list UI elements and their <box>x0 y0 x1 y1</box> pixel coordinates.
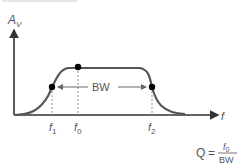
f2-label: f2 <box>148 121 156 136</box>
f1-label: f1 <box>49 121 57 136</box>
f0-label: f0 <box>74 121 82 136</box>
f2-point <box>149 84 155 90</box>
svg-text:f0: f0 <box>223 142 230 153</box>
svg-text:BW: BW <box>219 155 234 165</box>
svg-text:Q: Q <box>196 146 205 160</box>
bandpass-response-diagram: AV f BW f1 f0 f2 Q = f0 BW <box>0 0 240 166</box>
q-formula: Q = f0 BW <box>196 142 237 165</box>
y-axis-label: AV <box>7 13 22 29</box>
clipped-top-text <box>2 0 77 2</box>
bandwidth-label: BW <box>92 81 110 93</box>
x-axis-label: f <box>221 110 225 122</box>
svg-text:=: = <box>208 146 215 160</box>
f0-point <box>75 64 81 70</box>
f1-point <box>49 84 55 90</box>
